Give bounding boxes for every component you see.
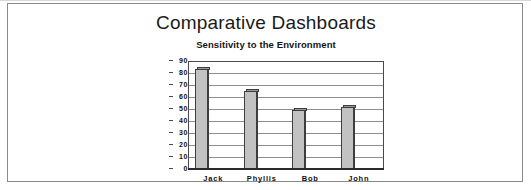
bar[interactable]	[341, 107, 354, 169]
x-axis-tick-label: Jack	[189, 174, 238, 183]
y-axis-tick-mark	[169, 144, 173, 145]
bars-layer	[189, 62, 383, 169]
bar-group	[286, 62, 335, 169]
page-title: Comparative Dashboards	[8, 12, 524, 34]
bar-group	[335, 62, 384, 169]
bar-chart: 9080706050403020100 JackPhyllisBobJohn	[180, 58, 385, 186]
y-axis-tick-mark	[169, 60, 173, 61]
y-axis-tick-mark	[169, 72, 173, 73]
bar-group	[189, 62, 238, 169]
y-axis-tick-mark	[169, 168, 173, 169]
bar[interactable]	[292, 110, 305, 169]
x-axis-tick-label: Bob	[286, 174, 335, 183]
scan-artifact-line	[0, 0, 531, 1]
x-axis-baseline	[188, 168, 384, 170]
y-axis-tick-mark	[169, 108, 173, 109]
y-axis-tick-mark	[169, 120, 173, 121]
x-axis-tick-label: Phyllis	[238, 174, 287, 183]
bar-group	[238, 62, 287, 169]
screenshot-root: Comparative Dashboards Sensitivity to th…	[0, 0, 531, 190]
x-axis-tick-label: John	[335, 174, 384, 183]
document-frame: Comparative Dashboards Sensitivity to th…	[7, 3, 523, 182]
bar[interactable]	[195, 69, 208, 169]
y-axis-tick-mark	[169, 132, 173, 133]
y-axis: 9080706050403020100	[166, 58, 188, 172]
y-axis-tick-mark	[169, 84, 173, 85]
bar[interactable]	[244, 91, 257, 169]
chart-subtitle: Sensitivity to the Environment	[8, 39, 524, 50]
y-axis-tick-mark	[169, 96, 173, 97]
y-axis-tick-mark	[169, 156, 173, 157]
